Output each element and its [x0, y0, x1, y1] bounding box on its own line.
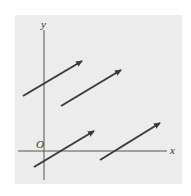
- vector-diagram: y x O: [0, 0, 191, 196]
- origin-label: O: [36, 138, 44, 150]
- diagram-panel: [15, 15, 182, 184]
- x-axis-label: x: [169, 144, 175, 156]
- y-axis-label: y: [40, 18, 46, 30]
